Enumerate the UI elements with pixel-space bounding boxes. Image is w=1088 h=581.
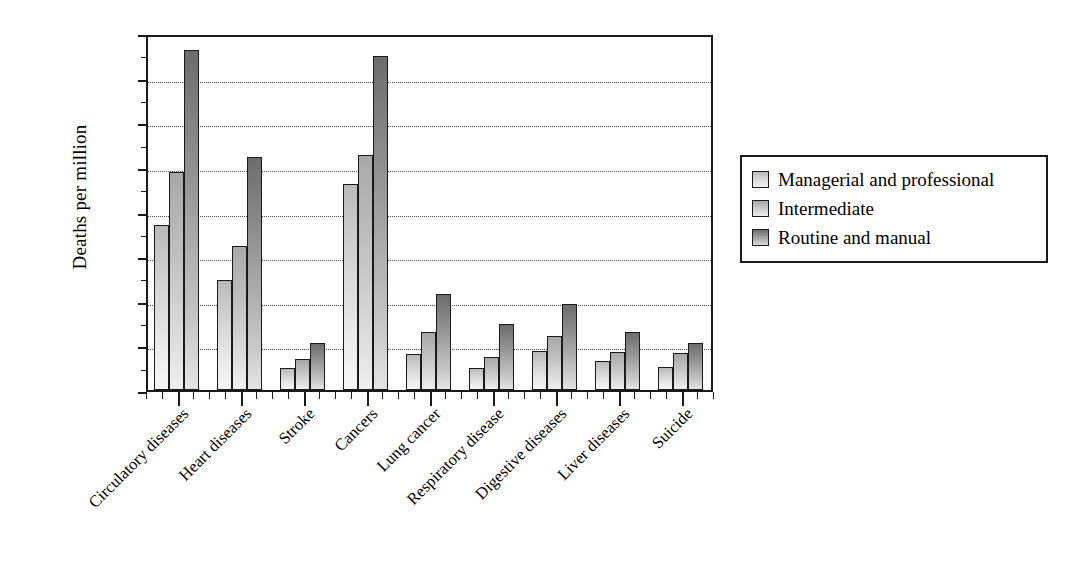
x-axis-minor-tick — [461, 392, 462, 399]
bar — [562, 304, 577, 390]
legend-item-label: Managerial and professional — [778, 170, 994, 189]
x-axis-minor-tick — [319, 392, 320, 399]
x-axis-minor-tick — [288, 392, 289, 399]
x-axis-minor-tick — [193, 392, 194, 399]
bar — [217, 280, 232, 390]
x-axis-minor-tick — [335, 392, 336, 399]
x-axis-minor-tick — [713, 392, 714, 399]
x-axis-minor-tick — [382, 392, 383, 399]
x-axis-minor-tick — [508, 392, 509, 399]
bar — [154, 225, 169, 390]
bar — [484, 357, 499, 390]
x-axis-minor-tick — [697, 392, 698, 399]
bar — [406, 354, 421, 390]
legend: Managerial and professional Intermediate… — [740, 155, 1048, 263]
bar — [469, 368, 484, 390]
bar — [373, 56, 388, 390]
x-axis-minor-tick — [587, 392, 588, 399]
legend-swatch-icon — [752, 171, 769, 188]
bar — [280, 368, 295, 390]
x-axis-minor-tick — [398, 392, 399, 399]
bar-chart: Deaths per million 020040060080010001200… — [0, 0, 1088, 581]
x-axis-minor-tick — [256, 392, 257, 399]
x-axis-minor-tick — [524, 392, 525, 399]
plot-area — [146, 35, 713, 392]
bar — [232, 246, 247, 390]
x-axis-minor-tick — [209, 392, 210, 399]
legend-item[interactable]: Intermediate — [752, 194, 1036, 223]
legend-item-label: Routine and manual — [778, 228, 931, 247]
x-axis-minor-tick — [477, 392, 478, 399]
legend-item[interactable]: Managerial and professional — [752, 165, 1036, 194]
bar — [532, 351, 547, 390]
x-axis-minor-tick — [540, 392, 541, 399]
bar — [169, 172, 184, 390]
bar — [436, 294, 451, 390]
y-axis-title: Deaths per million — [69, 77, 91, 317]
x-axis-minor-tick — [666, 392, 667, 399]
x-axis-minor-tick — [162, 392, 163, 399]
x-axis-minor-tick — [603, 392, 604, 399]
x-axis-minor-tick — [351, 392, 352, 399]
bar — [595, 361, 610, 390]
bars-layer — [148, 37, 711, 390]
bar — [499, 324, 514, 390]
bar — [673, 353, 688, 390]
x-axis-minor-tick — [650, 392, 651, 399]
bar — [247, 157, 262, 390]
bar — [547, 336, 562, 390]
bar — [184, 50, 199, 390]
legend-item[interactable]: Routine and manual — [752, 223, 1036, 252]
legend-item-label: Intermediate — [778, 199, 874, 218]
x-axis-minor-tick — [634, 392, 635, 399]
legend-swatch-icon — [752, 200, 769, 217]
x-axis-minor-tick — [445, 392, 446, 399]
x-axis-minor-tick — [146, 392, 147, 399]
x-axis-minor-tick — [571, 392, 572, 399]
legend-swatch-icon — [752, 229, 769, 246]
x-axis-minor-tick — [414, 392, 415, 399]
bar — [358, 155, 373, 390]
bar — [421, 332, 436, 390]
bar — [658, 367, 673, 390]
x-axis-minor-tick — [225, 392, 226, 399]
bar — [688, 343, 703, 390]
x-axis-minor-tick — [272, 392, 273, 399]
bar — [343, 184, 358, 390]
bar — [295, 359, 310, 390]
bar — [625, 332, 640, 390]
bar — [610, 352, 625, 390]
bar — [310, 343, 325, 390]
